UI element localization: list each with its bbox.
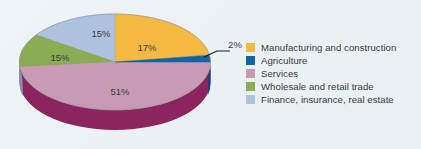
- legend-swatch-icon-agriculture: [246, 56, 255, 65]
- legend-label-finance: Finance, insurance, real estate: [261, 93, 394, 106]
- chart-legend: Manufacturing and construction Agricultu…: [246, 41, 421, 106]
- pie-label-wholesale: 15%: [50, 52, 70, 63]
- legend-label-manufacturing: Manufacturing and construction: [261, 41, 396, 54]
- legend-swatch-icon-finance: [246, 95, 255, 104]
- legend-item-manufacturing[interactable]: Manufacturing and construction: [246, 41, 421, 54]
- chart-figure: 17% 51% 15% 15% 2% Manufacturing and con…: [0, 0, 421, 149]
- pie-label-finance: 15%: [91, 28, 111, 39]
- pie-label-services: 51%: [110, 86, 130, 97]
- legend-label-wholesale: Wholesale and retail trade: [261, 80, 374, 93]
- pie-chart-svg: 17% 51% 15% 15%: [14, 8, 236, 143]
- legend-swatch-icon-wholesale: [246, 82, 255, 91]
- pie-label-agriculture-callout: 2%: [228, 39, 242, 50]
- legend-label-services: Services: [261, 67, 298, 80]
- pie-label-manufacturing: 17%: [137, 42, 157, 53]
- legend-item-agriculture[interactable]: Agriculture: [246, 54, 421, 67]
- legend-label-agriculture: Agriculture: [261, 54, 307, 67]
- legend-swatch-icon-manufacturing: [246, 43, 255, 52]
- legend-item-wholesale[interactable]: Wholesale and retail trade: [246, 80, 421, 93]
- pie-chart: 17% 51% 15% 15%: [14, 8, 236, 143]
- legend-swatch-icon-services: [246, 69, 255, 78]
- legend-item-services[interactable]: Services: [246, 67, 421, 80]
- legend-item-finance[interactable]: Finance, insurance, real estate: [246, 93, 421, 106]
- pie-slice-manufacturing: [115, 14, 209, 62]
